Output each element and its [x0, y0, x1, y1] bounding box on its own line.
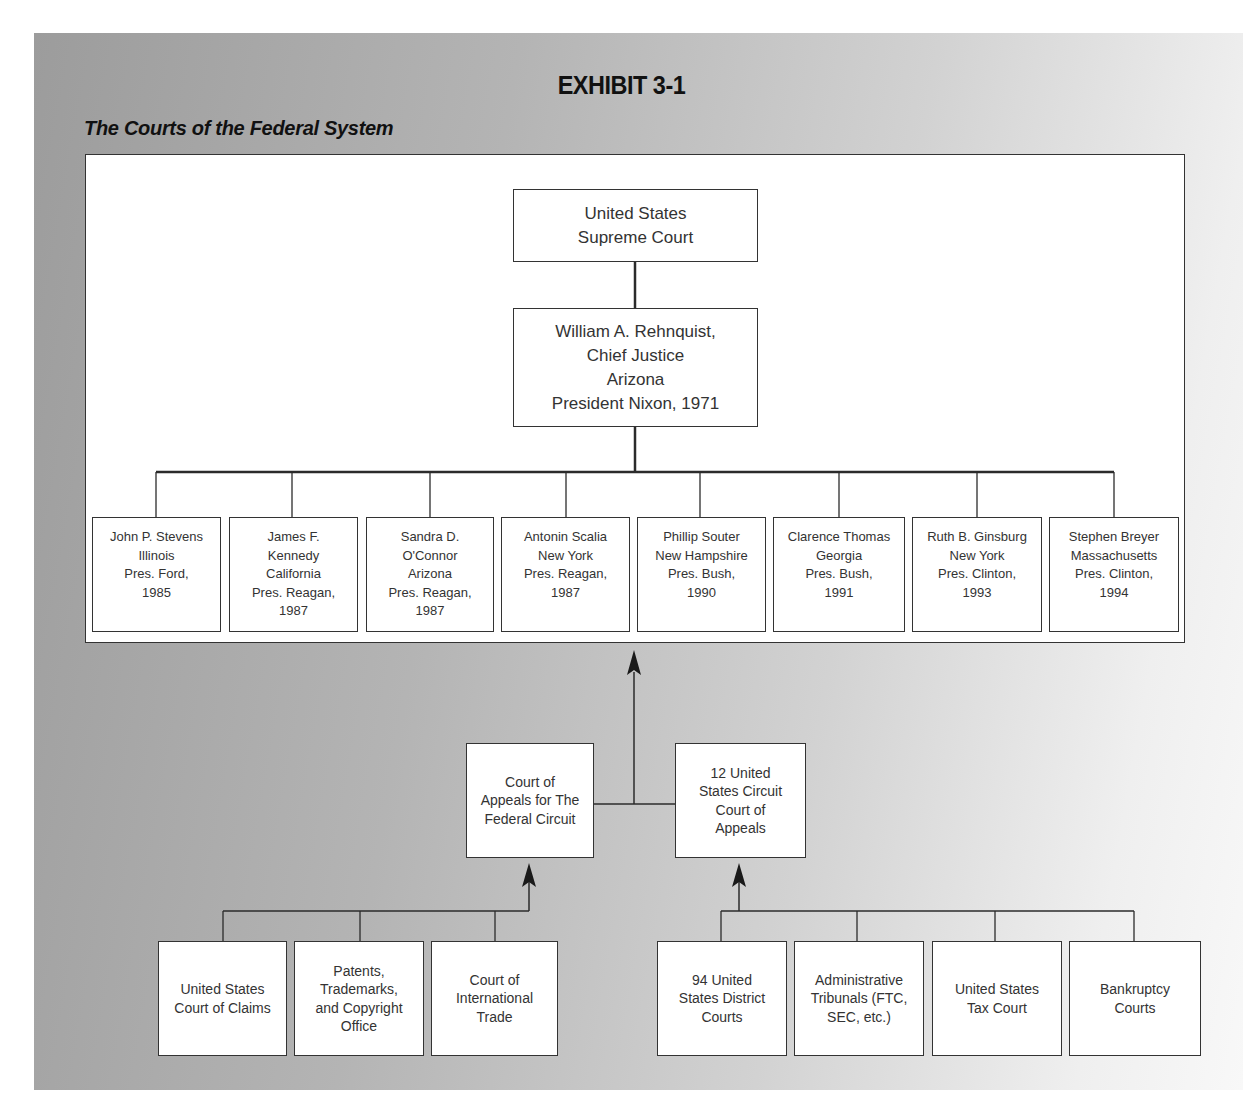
justice-box: Antonin Scalia New York Pres. Reagan, 19… [501, 517, 630, 632]
bankruptcy-courts-box: Bankruptcy Courts [1069, 941, 1201, 1056]
justice-box: Clarence Thomas Georgia Pres. Bush, 1991 [773, 517, 905, 632]
court-of-claims-box: United States Court of Claims [158, 941, 287, 1056]
arrow-up-to-supreme-court [627, 650, 641, 675]
justice-box: Phillip Souter New Hampshire Pres. Bush,… [637, 517, 766, 632]
justice-box: John P. Stevens Illinois Pres. Ford, 198… [92, 517, 221, 632]
justice-box: Stephen Breyer Massachusetts Pres. Clint… [1049, 517, 1179, 632]
patents-trademarks-office-box: Patents, Trademarks, and Copyright Offic… [294, 941, 424, 1056]
federal-circuit-appeals-box: Court of Appeals for The Federal Circuit [466, 743, 594, 858]
justice-box: Ruth B. Ginsburg New York Pres. Clinton,… [912, 517, 1042, 632]
tax-court-box: United States Tax Court [932, 941, 1062, 1056]
district-courts-box: 94 United States District Courts [657, 941, 787, 1056]
chief-justice-box: William A. Rehnquist, Chief Justice Ariz… [513, 308, 758, 427]
supreme-court-box: United States Supreme Court [513, 189, 758, 262]
justice-box: Sandra D. O'Connor Arizona Pres. Reagan,… [366, 517, 494, 632]
circuit-court-of-appeals-box: 12 United States Circuit Court of Appeal… [675, 743, 806, 858]
international-trade-court-box: Court of International Trade [431, 941, 558, 1056]
justice-box: James F. Kennedy California Pres. Reagan… [229, 517, 358, 632]
administrative-tribunals-box: Administrative Tribunals (FTC, SEC, etc.… [794, 941, 924, 1056]
